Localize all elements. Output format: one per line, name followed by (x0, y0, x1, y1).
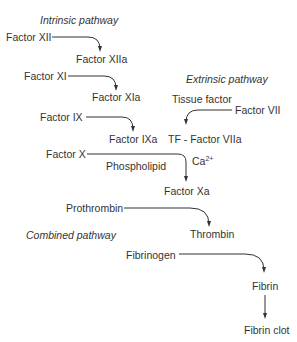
heading-intrinsic-pathway: Intrinsic pathway (40, 14, 118, 26)
node-fibrin-clot: Fibrin clot (244, 324, 290, 336)
node-factor-x: Factor X (46, 148, 86, 160)
arrow-vii-to-tfviia (186, 110, 232, 122)
node-factor-ixa: Factor IXa (109, 133, 157, 145)
cofactor-calcium: Ca2+ (192, 155, 213, 167)
node-factor-vii: Factor VII (235, 104, 281, 116)
node-fibrin: Fibrin (252, 280, 278, 292)
node-thrombin: Thrombin (190, 228, 234, 240)
arrow-fibrinogen-to-fibrin (179, 254, 264, 270)
node-factor-xa: Factor Xa (164, 185, 210, 197)
calcium-symbol: Ca (192, 155, 205, 167)
node-prothrombin: Prothrombin (66, 202, 123, 214)
node-factor-xiia: Factor XIIa (76, 53, 127, 65)
node-factor-xii: Factor XII (6, 31, 52, 43)
calcium-charge: 2+ (205, 155, 213, 162)
node-tissue-factor: Tissue factor (172, 93, 232, 105)
arrow-ix-to-ixa (86, 117, 133, 129)
node-factor-xia: Factor XIa (92, 91, 140, 103)
heading-combined-pathway: Combined pathway (26, 229, 116, 241)
heading-extrinsic-pathway: Extrinsic pathway (186, 73, 268, 85)
node-factor-xi: Factor XI (24, 70, 67, 82)
arrow-xii-to-xiia (52, 37, 100, 49)
arrow-prothrombin-to-thrombin (124, 208, 209, 224)
cofactor-phospholipid: Phospholipid (106, 160, 166, 172)
arrow-xi-to-xia (68, 76, 116, 88)
node-tf-factor-viia: TF - Factor VIIa (168, 133, 242, 145)
node-fibrinogen: Fibrinogen (126, 249, 176, 261)
node-factor-ix: Factor IX (40, 111, 83, 123)
